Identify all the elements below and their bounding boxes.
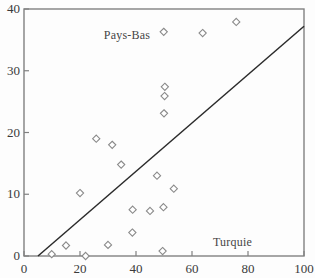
plot-frame <box>24 9 304 256</box>
y-tick-label: 20 <box>0 125 20 141</box>
y-tick-label: 30 <box>0 63 20 79</box>
chart-annotation-label: Pays-Bas <box>104 28 150 43</box>
x-tick-label: 20 <box>74 261 87 277</box>
x-tick-label: 0 <box>21 261 28 277</box>
x-tick-label: 80 <box>242 261 255 277</box>
y-tick-label: 40 <box>0 1 20 17</box>
y-tick-label: 0 <box>0 248 20 264</box>
chart-annotation-label: Turquie <box>213 235 252 250</box>
x-tick-label: 100 <box>294 261 314 277</box>
scatter-chart-figure: 010203040 020406080100 Pays-BasTurquie <box>0 0 315 278</box>
plot-canvas <box>0 0 315 278</box>
x-tick-label: 60 <box>186 261 199 277</box>
x-tick-label: 40 <box>130 261 143 277</box>
y-tick-label: 10 <box>0 186 20 202</box>
